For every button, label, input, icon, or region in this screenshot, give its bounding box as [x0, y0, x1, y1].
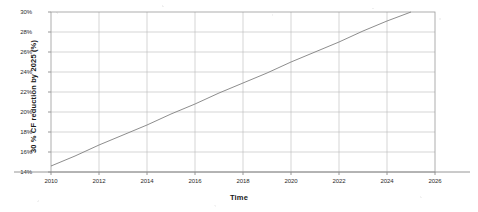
- plot-area: [14, 12, 470, 175]
- plot-svg: [0, 0, 478, 212]
- chart-container: 30 % CF reduction by 2025 (%) 30% 28% 26…: [0, 0, 478, 212]
